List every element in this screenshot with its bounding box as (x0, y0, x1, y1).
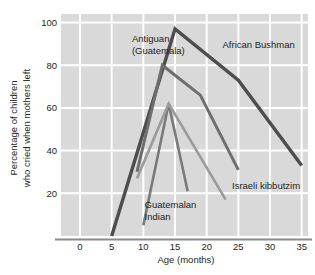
y-tick-label: 80 (46, 60, 57, 71)
x-tick-labels: 05101520253035 (77, 241, 307, 252)
series-label-african-bushman: African Bushman (223, 39, 295, 50)
y-tick-label: 20 (46, 188, 57, 199)
x-tick-label: 30 (265, 241, 276, 252)
x-tick-label: 5 (109, 241, 114, 252)
series-label-guatemalan-line1: Guatemalan (145, 199, 197, 210)
series-label-antiguan-line2: (Guatemala) (132, 45, 185, 56)
x-tick-label: 15 (170, 241, 181, 252)
x-tick-label: 20 (201, 241, 212, 252)
line-chart: 05101520253035 20406080100 Age (months) … (0, 0, 315, 275)
x-tick-label: 25 (233, 241, 244, 252)
y-tick-label: 100 (41, 17, 57, 28)
y-tick-label: 60 (46, 102, 57, 113)
y-axis-title-line2: who cried when mothers left (21, 69, 32, 189)
series-label-israeli-kibbutzim: Israeli kibbutzim (232, 180, 300, 191)
x-tick-label: 0 (77, 241, 82, 252)
y-axis-title-line1: Percentage of children (8, 80, 19, 175)
y-tick-label: 40 (46, 145, 57, 156)
x-tick-label: 35 (296, 241, 307, 252)
x-axis-title: Age (months) (157, 254, 214, 265)
x-tick-label: 10 (138, 241, 149, 252)
chart-container: 05101520253035 20406080100 Age (months) … (0, 0, 315, 275)
y-tick-labels: 20406080100 (41, 17, 57, 199)
series-label-guatemalan-line2: Indian (145, 211, 171, 222)
series-label-antiguan-line1: Antiguan (132, 33, 170, 44)
